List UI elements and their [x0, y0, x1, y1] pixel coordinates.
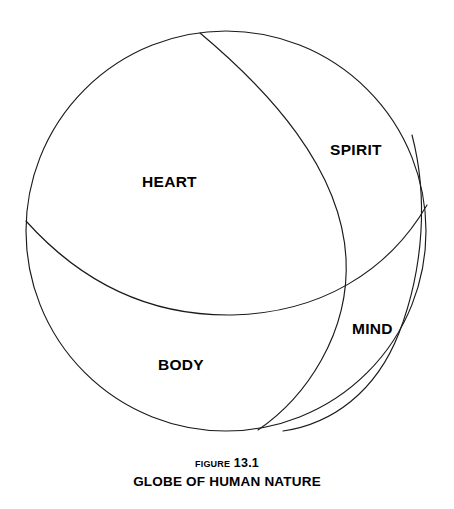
figure-title-label: GLOBE OF HUMAN NATURE — [0, 473, 454, 491]
meridian-front-arc — [200, 33, 346, 430]
region-label-body: BODY — [158, 357, 204, 373]
sphere-outline — [26, 31, 426, 431]
region-label-mind: MIND — [352, 321, 393, 337]
figure-caption: Figure 13.1 GLOBE OF HUMAN NATURE — [0, 455, 454, 490]
equator-arc — [26, 205, 427, 315]
figure-container: HEART SPIRIT MIND BODY Figure 13.1 GLOBE… — [0, 0, 454, 509]
figure-number-label: Figure 13.1 — [0, 455, 454, 472]
region-label-spirit: SPIRIT — [330, 142, 382, 158]
region-label-heart: HEART — [142, 174, 197, 190]
globe-diagram — [0, 0, 454, 509]
